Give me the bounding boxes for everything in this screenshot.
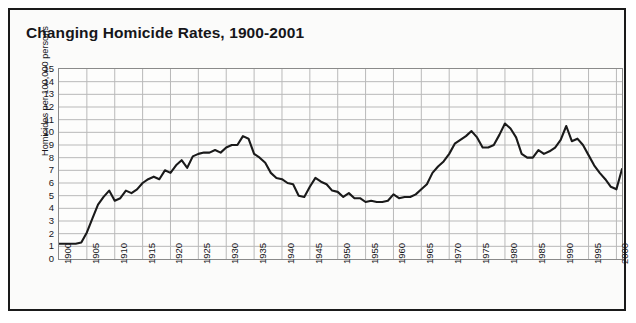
x-tick-label: 1965 [425,243,435,264]
x-tick-label: 1920 [174,243,184,264]
y-tick-label: 11 [32,115,54,125]
chart-figure: Changing Homicide Rates, 1900-2001 Homic… [8,8,626,311]
x-tick-label: 1925 [202,243,212,264]
y-tick-label: 2 [32,229,54,239]
x-tick-label: 1940 [286,243,296,264]
y-tick-label: 0 [32,254,54,264]
y-tick-label: 12 [32,102,54,112]
y-tick-label: 5 [32,191,54,201]
line-chart-svg [59,69,622,259]
x-tick-label: 1985 [537,243,547,264]
homicide-rate-line [59,123,622,243]
y-tick-label: 4 [32,204,54,214]
plot-area-wrapper: Homicides per 100,000 persons 0123456789… [10,10,628,313]
x-tick-label: 1980 [509,243,519,264]
x-tick-label: 1930 [230,243,240,264]
x-tick-label: 2000 [620,243,630,264]
y-tick-label: 9 [32,140,54,150]
y-tick-label: 8 [32,153,54,163]
plot-area [58,68,623,260]
y-tick-label: 1 [32,242,54,252]
x-axis-ticks: 1900190519101915192019251930193519401945… [58,261,623,311]
x-tick-label: 1950 [342,243,352,264]
y-tick-label: 3 [32,216,54,226]
y-tick-label: 15 [32,64,54,74]
x-tick-label: 1915 [147,243,157,264]
y-tick-label: 7 [32,166,54,176]
y-axis-ticks: 0123456789101112131415 [30,10,54,313]
x-tick-label: 1960 [397,243,407,264]
y-tick-label: 6 [32,178,54,188]
x-tick-label: 1975 [481,243,491,264]
x-tick-label: 1910 [119,243,129,264]
y-tick-label: 10 [32,128,54,138]
x-tick-label: 1945 [314,243,324,264]
gridlines [59,69,622,259]
x-tick-label: 1935 [258,243,268,264]
x-tick-label: 1995 [593,243,603,264]
x-tick-label: 1905 [91,243,101,264]
x-tick-label: 1970 [453,243,463,264]
x-tick-label: 1900 [63,243,73,264]
x-tick-label: 1955 [370,243,380,264]
y-tick-label: 14 [32,77,54,87]
y-tick-label: 13 [32,90,54,100]
x-tick-label: 1990 [565,243,575,264]
